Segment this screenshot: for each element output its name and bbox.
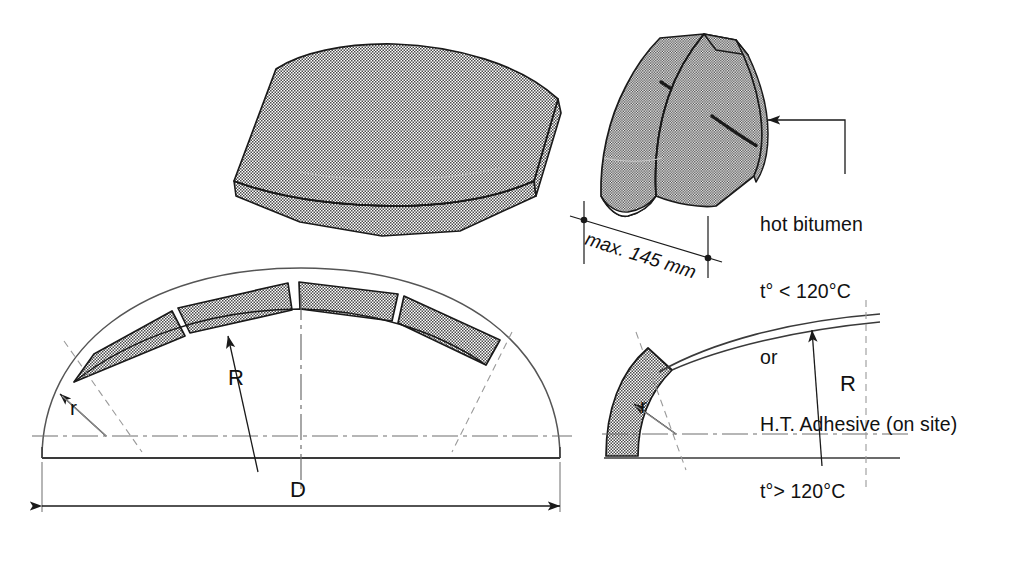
radius-label-r-main: r: [70, 396, 77, 420]
dome-cross-section: [32, 268, 572, 512]
note-line-5: t°> 120°C: [760, 481, 957, 504]
note-line-2: t° < 120°C: [760, 281, 957, 304]
isometric-curved-block: [234, 44, 561, 236]
radius-label-r-detail: r: [640, 394, 647, 418]
note-line-3: or: [760, 347, 957, 370]
diagram-canvas: hot bitumen t° < 120°C or H.T. Adhesive …: [0, 0, 1025, 562]
note-leader-line: [768, 120, 845, 174]
diameter-label-D: D: [290, 478, 306, 503]
dimension-dot-icon: [705, 255, 712, 262]
dimension-dot-icon: [581, 217, 588, 224]
isometric-jointed-blocks: [601, 34, 768, 216]
note-line-4: H.T. Adhesive (on site): [760, 414, 957, 437]
bitumen-note-block: hot bitumen t° < 120°C or H.T. Adhesive …: [760, 170, 957, 548]
note-line-1: hot bitumen: [760, 214, 957, 237]
radius-label-R-detail: R: [840, 372, 856, 397]
radius-label-R-main: R: [228, 366, 244, 391]
